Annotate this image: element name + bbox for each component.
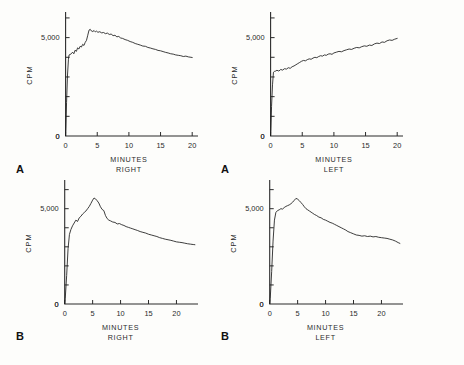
chart-panel-bottom-right: 05,000005101520MINUTESLEFTCPM: [205, 168, 410, 336]
chart-panel-top-left: 05,000005101520MINUTESRIGHTCPM: [0, 0, 205, 168]
x-tick-label: 20: [172, 309, 180, 318]
y-tick-label: 5,000: [41, 33, 60, 42]
x-axis-title: MINUTES: [102, 323, 139, 332]
x-tick-label: 15: [156, 141, 164, 150]
data-curve: [271, 38, 398, 136]
x-tick-label: 15: [144, 309, 152, 318]
x-tick-label: 10: [321, 309, 329, 318]
panel-letter-a-top-left: A: [16, 163, 24, 175]
x-axis-title: MINUTES: [110, 155, 147, 164]
y-tick-label-zero: 0: [55, 132, 59, 141]
x-axis-subtitle: RIGHT: [108, 333, 134, 342]
x-tick-label: 20: [393, 141, 401, 150]
y-tick-label: 5,000: [246, 33, 264, 42]
x-tick-label: 20: [188, 141, 196, 150]
chart-panel-top-right: 05,000005101520MINUTESLEFTCPM: [205, 0, 410, 168]
figure-panel-grid: 05,000005101520MINUTESRIGHTCPM 05,000005…: [0, 0, 464, 365]
x-tick-label: 5: [95, 141, 99, 150]
x-tick-label: 0: [269, 141, 273, 150]
y-axis-title: CPM: [229, 233, 238, 253]
data-curve: [66, 29, 193, 136]
data-curve: [65, 198, 195, 304]
x-axis-subtitle: LEFT: [315, 333, 335, 342]
x-tick-label: 15: [349, 309, 357, 318]
x-tick-label: 5: [91, 309, 95, 318]
x-tick-label: 10: [125, 141, 133, 150]
x-tick-label: 15: [361, 141, 369, 150]
x-tick-label: 0: [63, 309, 67, 318]
chart-panel-bottom-left: 05,000005101520MINUTESRIGHTCPM: [0, 168, 205, 336]
x-axis-title: MINUTES: [307, 323, 344, 332]
y-axis-title: CPM: [24, 233, 33, 253]
y-axis-title: CPM: [230, 65, 239, 85]
y-axis-title: CPM: [25, 65, 34, 85]
x-tick-label: 0: [64, 141, 68, 150]
data-curve: [270, 198, 400, 304]
panel-letter-b-bottom-left: B: [16, 330, 24, 342]
x-tick-label: 10: [330, 141, 338, 150]
x-axis-title: MINUTES: [315, 155, 352, 164]
x-tick-label: 5: [300, 141, 304, 150]
x-tick-label: 0: [268, 309, 272, 318]
x-tick-label: 5: [296, 309, 300, 318]
y-tick-label-zero: 0: [260, 300, 264, 309]
x-tick-label: 20: [377, 309, 385, 318]
y-tick-label: 5,000: [245, 204, 264, 213]
panel-letter-b-bottom-right: B: [221, 330, 229, 342]
y-tick-label: 5,000: [40, 204, 59, 213]
y-tick-label-zero: 0: [55, 300, 59, 309]
panel-letter-a-top-right: A: [221, 163, 229, 175]
x-tick-label: 10: [116, 309, 124, 318]
y-tick-label-zero: 0: [260, 132, 264, 141]
